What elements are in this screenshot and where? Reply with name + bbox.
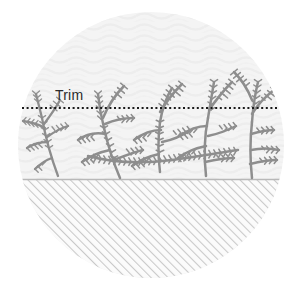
trim-label: Trim [55,87,83,103]
ground-region [0,179,301,290]
trim-guide-illustration: Trim [0,0,301,290]
illustration-canvas: Trim [0,0,301,290]
